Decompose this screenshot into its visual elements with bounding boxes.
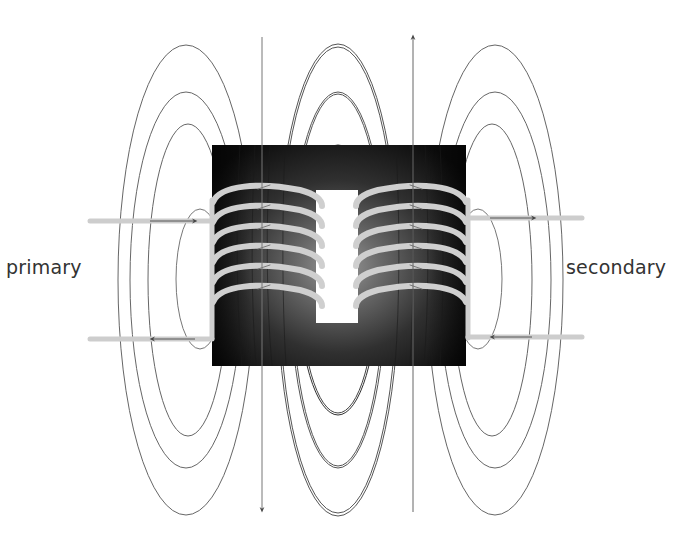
secondary-label: secondary: [566, 256, 666, 278]
primary-label: primary: [6, 256, 82, 278]
primary-leads: [90, 221, 212, 339]
secondary-leads: [468, 218, 582, 337]
iron-core: [212, 145, 466, 366]
transformer-diagram: primary secondary: [0, 0, 700, 543]
